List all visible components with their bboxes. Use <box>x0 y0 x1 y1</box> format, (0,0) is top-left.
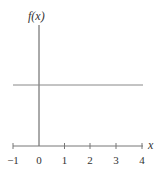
x-tick-label: 3 <box>113 154 119 166</box>
x-tick-label: 2 <box>87 154 93 166</box>
x-axis-label: x <box>147 138 154 152</box>
x-tick-label: 0 <box>36 154 42 166</box>
x-tick-label: 1 <box>62 154 68 166</box>
x-tick-label: 4 <box>139 154 145 166</box>
function-plot: f(x) x −1 0 1 2 3 4 <box>0 0 157 172</box>
x-tick-label: −1 <box>7 154 19 166</box>
y-axis-label: f(x) <box>28 9 45 23</box>
